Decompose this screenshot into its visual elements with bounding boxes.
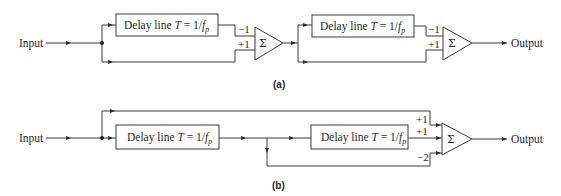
- delay-line-canceller-diagram: Input Delay line T = 1/fp −1 +1 Σ Delay …: [0, 0, 561, 196]
- arrow-icon: [502, 137, 507, 141]
- output-label-b: Output: [511, 133, 544, 146]
- arrow-icon: [241, 136, 246, 140]
- coef-top-a2: −1: [428, 23, 440, 35]
- arrow-icon: [108, 23, 113, 27]
- delay-feed-wire-a2: [298, 25, 312, 43]
- arrow-icon: [66, 136, 71, 140]
- arrow-icon: [303, 23, 308, 27]
- arrow-icon: [110, 109, 115, 113]
- output-label-a: Output: [511, 37, 544, 50]
- diagram-b: Input Delay line T = 1/fp Delay line T =…: [19, 109, 544, 191]
- coef-2-b: +1: [416, 125, 428, 137]
- arrow-icon: [436, 123, 441, 127]
- arrow-icon: [436, 151, 441, 155]
- direct-wire-a2: [298, 43, 443, 62]
- delay-feed-wire-a1: [102, 25, 116, 43]
- arrow-icon: [108, 60, 113, 64]
- arrow-icon: [66, 41, 71, 45]
- sigma-icon: Σ: [259, 37, 267, 50]
- coef-1-b: +1: [416, 113, 428, 125]
- caption-b: (b): [272, 180, 285, 191]
- coef-bottom-a2: +1: [428, 38, 440, 50]
- arrow-icon: [502, 41, 507, 45]
- caption-a: (a): [273, 79, 285, 90]
- coef-top-a1: −1: [238, 23, 250, 35]
- input-label-a: Input: [19, 37, 44, 50]
- arrow-icon: [265, 148, 269, 153]
- input-label-b: Input: [19, 132, 44, 145]
- arrow-icon: [108, 136, 113, 140]
- coef-3-b: −2: [417, 151, 429, 163]
- direct-wire-a1: [102, 43, 255, 62]
- sigma-icon: Σ: [448, 37, 456, 50]
- diagram-a: Input Delay line T = 1/fp −1 +1 Σ Delay …: [19, 14, 544, 90]
- arrow-icon: [291, 41, 296, 45]
- sigma-icon: Σ: [447, 133, 455, 146]
- arrow-icon: [303, 60, 308, 64]
- arrow-icon: [436, 136, 441, 140]
- coef-bottom-a1: +1: [238, 38, 250, 50]
- arrow-icon: [289, 136, 294, 140]
